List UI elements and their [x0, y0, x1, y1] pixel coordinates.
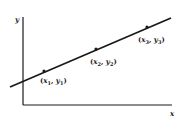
point-1-marker	[42, 69, 45, 72]
point-2-marker	[94, 47, 97, 50]
line-diagram: y x (x1, y1) (x2, y2) (x3, y3)	[0, 0, 187, 121]
point-2-label: (x2, y2)	[90, 57, 117, 67]
point-3-label: (x3, y3)	[138, 35, 165, 45]
x-axis-label: x	[169, 109, 175, 118]
point-3-marker	[145, 25, 148, 28]
y-axis-label: y	[14, 15, 20, 24]
point-1-label: (x1, y1)	[40, 76, 67, 86]
